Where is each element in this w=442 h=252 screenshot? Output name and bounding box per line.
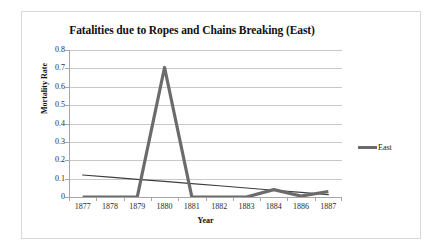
x-axis-tick-mark: [69, 197, 70, 201]
legend-swatch-east: [358, 146, 377, 149]
x-axis-tick-mark: [178, 197, 179, 201]
chart-legend: East: [358, 143, 392, 152]
trendline-path: [83, 175, 329, 195]
y-axis-tick-labels: 0.80.70.60.50.40.30.20.10: [37, 50, 65, 197]
y-axis-tick-label: 0.2: [39, 156, 65, 164]
y-axis-tick-label: 0.3: [39, 138, 65, 146]
y-axis-tick-label: 0: [39, 193, 65, 201]
x-axis-tick-labels: 1877187818791880188118821883188418861887: [69, 202, 342, 214]
x-axis-tick-mark: [287, 197, 288, 201]
x-axis-tick-mark: [124, 197, 125, 201]
legend-label-east: East: [378, 143, 392, 152]
x-axis-title: Year: [69, 216, 342, 225]
chart-container: Fatalities due to Ropes and Chains Break…: [21, 11, 421, 239]
x-axis-tick-mark: [260, 197, 261, 201]
x-axis-tick-mark: [206, 197, 207, 201]
x-axis-tick-mark: [151, 197, 152, 201]
x-axis-tick-mark: [96, 197, 97, 201]
y-axis-tick-label: 0.7: [39, 64, 65, 72]
data-series-layer: [69, 50, 342, 197]
x-axis-tick-label: 1887: [311, 202, 345, 212]
chart-title: Fatalities due to Ropes and Chains Break…: [22, 24, 362, 36]
y-axis-tick-label: 0.8: [39, 46, 65, 54]
x-axis-tick-mark: [341, 197, 342, 201]
x-axis-tick-mark: [315, 197, 316, 201]
y-axis-tick-label: 0.4: [39, 120, 65, 128]
y-axis-tick-label: 0.1: [39, 175, 65, 183]
y-axis-tick-label: 0.6: [39, 83, 65, 91]
x-axis-tick-marks: [69, 197, 342, 201]
x-axis-tick-mark: [233, 197, 234, 201]
y-axis-tick-label: 0.5: [39, 101, 65, 109]
